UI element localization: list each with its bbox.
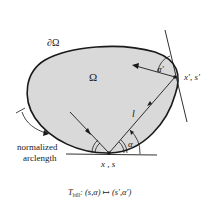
region-label: Ω: [89, 71, 97, 83]
point-x-s: [107, 151, 111, 155]
tangent-line-bottom: [66, 154, 157, 155]
arclength-label-line1: normalized: [17, 142, 58, 152]
arclength-label-line2: arclength: [23, 153, 57, 163]
point-x-prime-s-prime: [173, 75, 177, 79]
caption-rest: : (s,α) ↦ (s′,α′): [80, 187, 131, 197]
caption: Tbill: (s,α) ↦ (s′,α′): [68, 187, 131, 198]
end-point-label: x′, s′: [183, 72, 201, 82]
angle-prime-label: α′: [157, 64, 165, 74]
start-point-label: x , s: [100, 159, 116, 169]
angle-label: α: [128, 139, 133, 149]
length-label: l: [132, 108, 135, 119]
billiard-diagram: ∂Ω Ω α′ x′, s′ l α x , s normalized arcl…: [0, 0, 215, 203]
boundary-label: ∂Ω: [47, 37, 59, 48]
arclength-tick: [16, 108, 25, 113]
